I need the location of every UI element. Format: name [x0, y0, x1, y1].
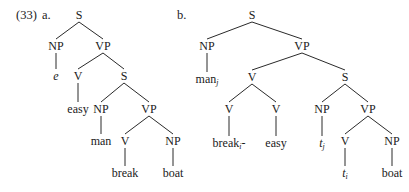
- tree-node-v3: V: [272, 103, 281, 115]
- tree-branch: [252, 84, 276, 102]
- tree-branch: [322, 84, 345, 102]
- tree-branch: [302, 53, 345, 70]
- tree-node-easy: easy: [67, 103, 88, 115]
- tree-node-break: break: [112, 167, 139, 179]
- tree-node-np2: NP: [93, 103, 108, 115]
- tree-branch: [79, 22, 103, 39]
- tree-node-v2: V: [121, 135, 130, 147]
- tree-node-np2: NP: [314, 103, 329, 115]
- tree-branches: [0, 0, 409, 192]
- tree-node-vp2: VP: [141, 103, 156, 115]
- tree-node-s2: S: [342, 71, 349, 83]
- tree-branch: [252, 53, 302, 70]
- tree-branch: [103, 53, 124, 69]
- tree-branch: [345, 116, 368, 134]
- tree-node-np1: NP: [48, 40, 63, 52]
- tree-branch: [124, 83, 149, 102]
- tree-branch: [125, 116, 149, 134]
- tree-node-s: S: [249, 9, 256, 21]
- tree-node-breaki: breaki-: [213, 137, 246, 149]
- tree-branch: [56, 22, 79, 39]
- tree-node-tj: tj: [319, 137, 325, 149]
- tree-node-vp1: VP: [95, 40, 110, 52]
- tree-branch: [229, 84, 252, 102]
- tree-node-boat: boat: [382, 167, 403, 179]
- tree-branch: [101, 83, 124, 102]
- tree-branch: [78, 53, 103, 69]
- tree-branch: [368, 116, 392, 134]
- tree-node-np1: NP: [199, 40, 214, 52]
- tree-node-s2: S: [121, 70, 128, 82]
- tree-node-v1: V: [74, 70, 83, 82]
- tree-node-vp1: VP: [294, 40, 309, 52]
- tree-node-v1: V: [248, 71, 257, 83]
- tree-node-np3: NP: [384, 135, 399, 147]
- tree-node-manj: manj: [196, 73, 219, 85]
- tree-branch: [149, 116, 173, 134]
- tree-node-easy: easy: [265, 137, 286, 149]
- tree-node-boat: boat: [163, 167, 184, 179]
- tree-node-v4: V: [341, 135, 350, 147]
- tree-node-man: man: [91, 135, 112, 147]
- tree-branch: [252, 22, 302, 39]
- tree-branch: [345, 84, 368, 102]
- tree-node-e: e: [53, 70, 58, 82]
- tree-node-np3: NP: [165, 135, 180, 147]
- tree-branch: [207, 22, 252, 39]
- tree-node-ti: ti: [342, 167, 348, 179]
- tree-node-s: S: [76, 9, 83, 21]
- tree-node-vp2: VP: [360, 103, 375, 115]
- tree-node-v2: V: [225, 103, 234, 115]
